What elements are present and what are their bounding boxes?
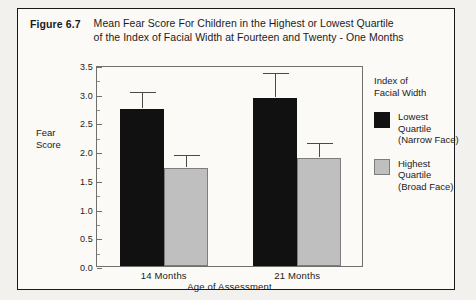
- y-tick-label: 3.0: [80, 90, 93, 100]
- error-bar-cap: [307, 143, 333, 144]
- legend-label-line: (Broad Face): [398, 181, 453, 193]
- bar-group: [97, 67, 231, 266]
- caption-line-2: of the Index of Facial Width at Fourteen…: [94, 31, 404, 45]
- y-tick-label: 1.0: [80, 205, 93, 215]
- error-bar-cap: [263, 73, 289, 74]
- y-axis-title-line-1: Fear: [36, 127, 80, 139]
- legend-item: LowestQuartile(Narrow Face): [374, 111, 454, 146]
- error-bar-cap: [174, 155, 200, 156]
- plot-area: 0.00.51.01.52.02.53.03.5 14 Months21 Mon…: [96, 66, 363, 267]
- y-tick-label: 0.0: [80, 263, 93, 273]
- bar: [253, 98, 297, 266]
- bar: [164, 168, 208, 266]
- legend-item-label: LowestQuartile(Narrow Face): [398, 111, 459, 146]
- y-tick-label: 0.5: [80, 234, 93, 244]
- y-axis-title: Fear Score: [36, 127, 80, 150]
- figure-label: Figure 6.7: [30, 17, 81, 30]
- bar: [297, 158, 341, 266]
- x-axis-label: 14 Months: [104, 270, 224, 281]
- legend-items: LowestQuartile(Narrow Face)HighestQuarti…: [374, 111, 454, 192]
- error-bar: [319, 143, 320, 157]
- error-bar-cap: [130, 92, 156, 93]
- legend-swatch-black: [374, 112, 390, 128]
- error-bar: [275, 73, 276, 97]
- legend-label-line: (Narrow Face): [398, 134, 459, 146]
- bar: [120, 109, 164, 266]
- legend-title: Index of Facial Width: [374, 75, 454, 98]
- legend-item-label: HighestQuartile(Broad Face): [398, 158, 453, 193]
- y-tick-label: 2.5: [80, 119, 93, 129]
- legend-label-line: Quartile: [398, 169, 453, 181]
- bar-series-container: [97, 67, 362, 266]
- x-axis-label: 21 Months: [237, 270, 357, 281]
- y-tick-label: 3.5: [80, 62, 93, 72]
- y-tick-mark: [97, 268, 102, 269]
- legend-title-line-1: Index of: [374, 75, 454, 87]
- legend-item: HighestQuartile(Broad Face): [374, 158, 454, 193]
- error-bar: [186, 155, 187, 168]
- figure-box: Figure 6.7 Mean Fear Score For Children …: [17, 8, 455, 290]
- figure-caption: Figure 6.7 Mean Fear Score For Children …: [30, 17, 442, 44]
- legend-label-line: Lowest: [398, 111, 459, 123]
- chart-legend: Index of Facial Width LowestQuartile(Nar…: [374, 75, 454, 204]
- legend-label-line: Quartile: [398, 123, 459, 135]
- y-tick-label: 1.5: [80, 176, 93, 186]
- y-tick-label: 2.0: [80, 148, 93, 158]
- bar-group: [231, 67, 365, 266]
- caption-line-1: Mean Fear Score For Children in the High…: [94, 17, 404, 31]
- y-axis-title-line-2: Score: [36, 139, 80, 151]
- x-axis-title: Age of Assessment: [96, 281, 363, 292]
- figure-caption-text: Mean Fear Score For Children in the High…: [94, 17, 404, 44]
- error-bar: [142, 92, 143, 109]
- legend-swatch-gray: [374, 159, 390, 175]
- legend-title-line-2: Facial Width: [374, 87, 454, 99]
- legend-label-line: Highest: [398, 158, 453, 170]
